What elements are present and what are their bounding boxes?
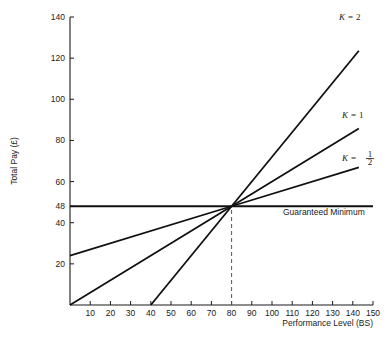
- svg-text:K=2: K=2: [338, 12, 361, 22]
- y-tick-label-80: 80: [56, 135, 66, 145]
- x-tick-label-100: 100: [265, 308, 279, 318]
- x-tick-label-150: 150: [366, 308, 380, 318]
- series-label-k1-symbol: K: [341, 110, 349, 120]
- pay-performance-chart: 2040486080100120140 10203040506070809010…: [0, 0, 388, 346]
- chart-canvas: 2040486080100120140 10203040506070809010…: [0, 0, 388, 346]
- x-axis-title: Performance Level (BS): [282, 318, 373, 328]
- series-label-k2-symbol: K: [338, 12, 346, 22]
- x-tick-label-110: 110: [285, 308, 299, 318]
- y-axis-tick-labels: 2040486080100120140: [51, 12, 65, 269]
- series-label-k2-equals: =: [348, 12, 353, 22]
- x-axis-tick-labels: 102030405060708090100110120130140150: [85, 308, 380, 318]
- series-label-k2-value: 2: [356, 12, 361, 22]
- y-tick-label-100: 100: [51, 94, 65, 104]
- guaranteed-minimum-label: Guaranteed Minimum: [283, 207, 365, 217]
- series-label-khalf-symbol: K: [341, 153, 349, 163]
- series-label-k1-equals: =: [351, 110, 356, 120]
- y-tick-label-20: 20: [56, 259, 66, 269]
- x-tick-label-10: 10: [85, 308, 95, 318]
- series-label-k1: K=1: [341, 110, 364, 120]
- x-tick-label-80: 80: [227, 308, 237, 318]
- x-tick-label-30: 30: [126, 308, 136, 318]
- series-line-0: [151, 51, 359, 305]
- x-tick-label-90: 90: [247, 308, 257, 318]
- y-axis-ticks: [70, 17, 74, 264]
- y-tick-label-48: 48: [56, 201, 66, 211]
- y-axis-title: Total Pay (£): [9, 137, 19, 185]
- x-tick-label-70: 70: [207, 308, 217, 318]
- svg-text:K=: K=: [341, 153, 356, 163]
- y-tick-label-120: 120: [51, 53, 65, 63]
- x-tick-label-130: 130: [326, 308, 340, 318]
- x-tick-label-50: 50: [166, 308, 176, 318]
- x-tick-label-40: 40: [146, 308, 156, 318]
- x-tick-label-20: 20: [106, 308, 116, 318]
- series-label-khalf-denominator: 2: [368, 157, 373, 167]
- y-tick-label-40: 40: [56, 218, 66, 228]
- x-tick-label-120: 120: [305, 308, 319, 318]
- axes-group: [70, 17, 373, 305]
- series-label-khalf-equals: =: [351, 153, 356, 163]
- x-tick-label-140: 140: [346, 308, 360, 318]
- series-lines-group: [70, 51, 359, 305]
- y-tick-label-60: 60: [56, 177, 66, 187]
- y-tick-label-140: 140: [51, 12, 65, 22]
- svg-text:K=1: K=1: [341, 110, 364, 120]
- series-label-k2: K=2: [338, 12, 361, 22]
- series-label-khalf: K= 1 2: [341, 149, 374, 167]
- x-tick-label-60: 60: [186, 308, 196, 318]
- series-label-k1-value: 1: [359, 110, 364, 120]
